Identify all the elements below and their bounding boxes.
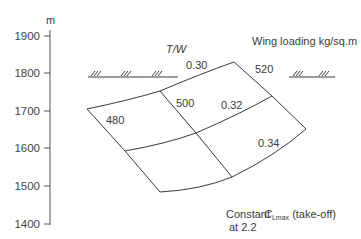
- y-tick-1800: 1800: [4, 68, 40, 80]
- annotation-at: at 2.2: [229, 222, 257, 233]
- tw-034-label: 0.34: [258, 138, 279, 149]
- tw-032-label: 0.32: [221, 100, 242, 111]
- tw-032-curve: [125, 96, 272, 151]
- y-tick-1900: 1900: [4, 31, 40, 43]
- y-tick-1700: 1700: [4, 106, 40, 118]
- wing-loading-lines: [87, 62, 306, 192]
- tw-label: T/W: [166, 44, 186, 55]
- wl-480-label: 480: [106, 115, 124, 126]
- annotation-clmax: CLmax (take-off): [264, 209, 336, 221]
- takeoff-text: (take-off): [292, 208, 336, 220]
- wl-500-label: 500: [176, 98, 194, 109]
- runway-limit-right: [289, 71, 335, 77]
- wl-520-label: 520: [255, 64, 273, 75]
- runway-limit-left: [88, 71, 178, 77]
- y-tick-1400: 1400: [4, 219, 40, 231]
- tw-034-curve: [160, 129, 306, 192]
- wing-loading-label: Wing loading kg/sq.m: [252, 36, 357, 47]
- y-tick-1600: 1600: [4, 143, 40, 155]
- tw-030-curve: [87, 62, 234, 109]
- cl-subscript: Lmax: [272, 214, 289, 221]
- tw-030-label: 0.30: [186, 60, 207, 71]
- y-tick-1500: 1500: [4, 181, 40, 193]
- tw-curves: [87, 62, 306, 192]
- y-axis-unit: m: [46, 15, 55, 26]
- cl-symbol: C: [264, 208, 272, 220]
- y-ticks: [44, 36, 50, 224]
